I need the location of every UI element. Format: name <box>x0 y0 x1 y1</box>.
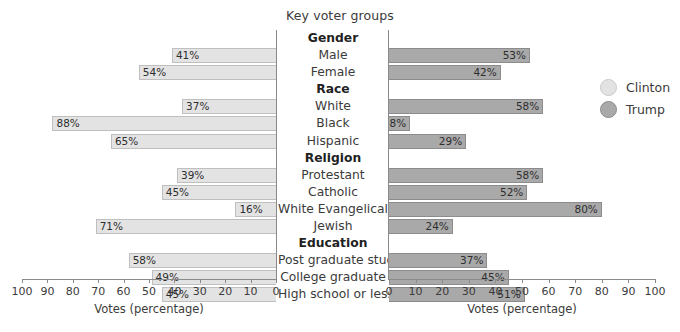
clinton-bar[interactable]: 88% <box>52 116 276 131</box>
legend-item-trump: Trump <box>600 98 670 120</box>
trump-bar-value: 52% <box>497 186 526 199</box>
category-header: Gender <box>278 30 388 47</box>
trump-bar[interactable]: 58% <box>389 168 543 183</box>
trump-bar-row: 45% <box>389 269 655 286</box>
right-axis-tick-label: 90 <box>621 285 635 298</box>
trump-bar[interactable]: 58% <box>389 99 543 114</box>
clinton-bar-value: 54% <box>140 66 169 79</box>
spacer-row <box>22 150 276 167</box>
clinton-bar-row: 41% <box>22 47 276 64</box>
butterfly-chart: Key voter groups 41%54%37%88%65%39%45%16… <box>0 0 680 332</box>
clinton-bar[interactable]: 71% <box>96 219 276 234</box>
trump-bar-row: 24% <box>389 218 655 235</box>
trump-bar-value: 24% <box>422 220 451 233</box>
clinton-bar-value: 39% <box>178 169 207 182</box>
trump-bar[interactable]: 45% <box>389 270 509 285</box>
clinton-bar-row: 37% <box>22 98 276 115</box>
left-axis-title: Votes (percentage) <box>94 302 204 316</box>
chart-title: Key voter groups <box>0 8 680 23</box>
spacer-row <box>389 30 655 47</box>
legend: Clinton Trump <box>600 76 670 120</box>
left-axis-tick-label: 40 <box>167 285 181 298</box>
trump-bar-value: 42% <box>470 66 499 79</box>
trump-bar-value: 58% <box>513 100 542 113</box>
legend-swatch-clinton-icon <box>600 79 617 96</box>
clinton-bar[interactable]: 65% <box>111 134 276 149</box>
trump-bar[interactable]: 80% <box>389 202 602 217</box>
trump-bar[interactable]: 29% <box>389 134 466 149</box>
clinton-bar-row: 39% <box>22 167 276 184</box>
left-axis-tick <box>149 279 150 283</box>
right-axis-tick <box>469 279 470 283</box>
clinton-bar[interactable]: 39% <box>177 168 276 183</box>
clinton-bar-row: 58% <box>22 252 276 269</box>
clinton-bar-value: 16% <box>236 203 265 216</box>
clinton-bar[interactable]: 41% <box>172 48 276 63</box>
clinton-bar-value: 49% <box>153 271 182 284</box>
category-label: Protestant <box>278 167 388 184</box>
trump-bar[interactable]: 52% <box>389 185 527 200</box>
trump-bar[interactable]: 37% <box>389 253 487 268</box>
left-axis-tick <box>174 279 175 283</box>
left-axis-tick-label: 90 <box>40 285 54 298</box>
clinton-bar-value: 41% <box>173 49 202 62</box>
right-axis-tick <box>522 279 523 283</box>
clinton-bar-row: 71% <box>22 218 276 235</box>
legend-label-clinton: Clinton <box>626 80 670 95</box>
clinton-bar-row: 49% <box>22 269 276 286</box>
category-label: High school or less <box>278 286 388 303</box>
trump-bars-panel: 53%42%58%8%29%58%52%80%24%37%45%51% <box>389 30 655 278</box>
left-axis-tick-label: 10 <box>244 285 258 298</box>
left-axis-tick-label: 30 <box>193 285 207 298</box>
right-axis-tick <box>628 279 629 283</box>
left-axis-tick <box>98 279 99 283</box>
clinton-bar[interactable]: 58% <box>129 253 276 268</box>
legend-swatch-trump-icon <box>600 101 617 118</box>
right-axis-tick-label: 70 <box>568 285 582 298</box>
right-axis-tick-label: 0 <box>386 285 393 298</box>
left-axis-tick <box>225 279 226 283</box>
trump-bar[interactable]: 42% <box>389 65 501 80</box>
category-label: Female <box>278 64 388 81</box>
spacer-row <box>22 81 276 98</box>
clinton-bar[interactable]: 16% <box>235 202 276 217</box>
right-axis-tick <box>442 279 443 283</box>
right-axis-tick-label: 50 <box>515 285 529 298</box>
category-label: Jewish <box>278 218 388 235</box>
left-axis-tick <box>124 279 125 283</box>
right-axis-tick-label: 10 <box>409 285 423 298</box>
left-axis-tick <box>251 279 252 283</box>
left-axis-tick <box>47 279 48 283</box>
clinton-bar-value: 58% <box>130 254 159 267</box>
legend-item-clinton: Clinton <box>600 76 670 98</box>
clinton-bar[interactable]: 49% <box>152 270 276 285</box>
clinton-bars-panel: 41%54%37%88%65%39%45%16%71%58%49%45% <box>22 30 276 278</box>
trump-bar-row: 80% <box>389 201 655 218</box>
trump-bar-row: 52% <box>389 184 655 201</box>
clinton-bar-value: 71% <box>97 220 126 233</box>
trump-bar-value: 45% <box>478 271 507 284</box>
category-label: Black <box>278 115 388 132</box>
trump-bar-value: 37% <box>457 254 486 267</box>
right-axis-tick <box>655 279 656 283</box>
clinton-bar[interactable]: 37% <box>182 99 276 114</box>
clinton-bar-row: 65% <box>22 133 276 150</box>
right-axis-tick <box>575 279 576 283</box>
clinton-bar[interactable]: 54% <box>139 65 276 80</box>
left-axis-tick-label: 80 <box>66 285 80 298</box>
category-header: Race <box>278 81 388 98</box>
left-axis-tick <box>200 279 201 283</box>
right-axis-tick-label: 80 <box>595 285 609 298</box>
right-axis-tick-label: 100 <box>645 285 666 298</box>
trump-bar[interactable]: 8% <box>389 116 410 131</box>
right-axis-tick-label: 40 <box>488 285 502 298</box>
trump-bar-row: 37% <box>389 252 655 269</box>
trump-bar[interactable]: 53% <box>389 48 530 63</box>
right-axis-tick <box>495 279 496 283</box>
trump-bar[interactable]: 24% <box>389 219 453 234</box>
category-label: White <box>278 98 388 115</box>
left-axis-tick-label: 50 <box>142 285 156 298</box>
left-axis-tick-label: 20 <box>218 285 232 298</box>
clinton-bar[interactable]: 45% <box>162 185 276 200</box>
right-axis-tick <box>389 279 390 283</box>
